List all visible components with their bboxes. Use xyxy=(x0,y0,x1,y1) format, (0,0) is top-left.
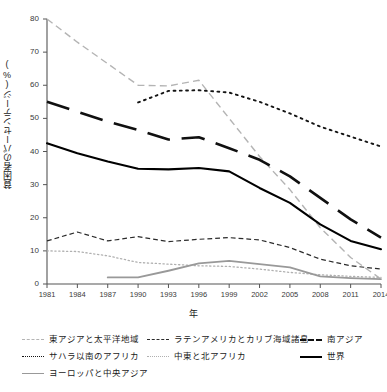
legend-label: サハラ以南のアフリカ xyxy=(49,351,139,361)
legend-swatch-dashed-thin-icon xyxy=(147,334,169,344)
legend-label: ヨーロッパと中央アジア xyxy=(49,368,148,378)
series-line-1 xyxy=(47,232,381,269)
series-line-4 xyxy=(47,251,381,278)
legend-swatch-solid-gray-icon xyxy=(22,368,44,378)
legend-item[interactable]: ヨーロッパと中央アジア xyxy=(22,366,148,379)
legend-swatch-dotted-light-icon xyxy=(147,351,169,361)
x-axis-title: 年 xyxy=(0,307,387,320)
legend-item[interactable]: 世界 xyxy=(300,349,345,362)
axis-lines xyxy=(43,19,381,288)
legend-label: 中東と北アフリカ xyxy=(174,351,246,361)
legend-item[interactable]: ラテンアメリカとカリブ海域諸島 xyxy=(147,332,309,345)
legend-label: 南アジア xyxy=(327,334,363,344)
series-line-0 xyxy=(47,19,381,279)
legend-item[interactable]: 中東と北アフリカ xyxy=(147,349,246,362)
legend-swatch-dotted-icon xyxy=(22,351,44,361)
legend-label: 東アジアと太平洋地域 xyxy=(49,334,139,344)
legend-label: ラテンアメリカとカリブ海域諸島 xyxy=(174,334,309,344)
legend-swatch-solid-bold-icon xyxy=(300,351,322,361)
legend-item[interactable]: サハラ以南のアフリカ xyxy=(22,349,139,362)
series-line-5 xyxy=(47,143,381,249)
chart-legend: 東アジアと太平洋地域ラテンアメリカとカリブ海域諸島南アジアサハラ以南のアフリカ中… xyxy=(0,331,387,387)
legend-item[interactable]: 東アジアと太平洋地域 xyxy=(22,332,139,345)
legend-item[interactable]: 南アジア xyxy=(300,332,363,345)
poverty-percentage-line-chart: 貧困者のパーセンテージ(%) 01020304050607080 1981198… xyxy=(0,0,387,392)
legend-swatch-dashed-icon xyxy=(22,334,44,344)
legend-label: 世界 xyxy=(327,351,345,361)
series-line-3 xyxy=(138,90,381,146)
series-lines xyxy=(47,19,381,279)
legend-swatch-dashed-bold-icon xyxy=(300,334,322,344)
